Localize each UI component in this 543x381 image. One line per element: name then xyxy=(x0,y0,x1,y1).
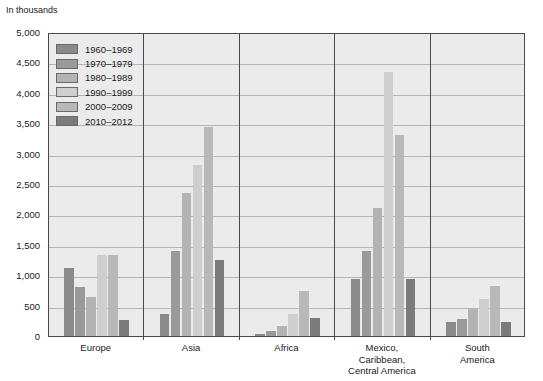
legend-swatch-icon xyxy=(56,73,78,83)
bar xyxy=(171,251,181,336)
category-separator xyxy=(334,33,335,340)
x-category-label: Mexico, Caribbean, Central America xyxy=(348,342,416,377)
bar xyxy=(490,286,500,336)
y-tick-label: 5,000 xyxy=(16,28,40,38)
bar xyxy=(255,334,265,336)
category-separator xyxy=(430,33,431,340)
bar xyxy=(501,322,511,336)
legend-swatch-icon xyxy=(56,87,78,97)
gridline xyxy=(49,308,524,309)
x-category-label: Africa xyxy=(274,342,298,354)
legend-item-label: 2000–2009 xyxy=(85,101,133,112)
y-axis: 05001,0001,5002,0002,5003,0003,5004,0004… xyxy=(0,33,44,337)
legend-item-label: 1980–1989 xyxy=(85,72,133,83)
legend-item[interactable]: 1990–1999 xyxy=(56,85,133,99)
bar xyxy=(457,319,467,336)
gridline xyxy=(49,277,524,278)
bar xyxy=(395,135,405,336)
legend-item[interactable]: 2000–2009 xyxy=(56,100,133,114)
legend-item-label: 2010–2012 xyxy=(85,116,133,127)
immigration-bar-chart: In thousands 05001,0001,5002,0002,5003,0… xyxy=(0,0,543,381)
x-category-label: Asia xyxy=(182,342,200,354)
legend-item[interactable]: 1980–1989 xyxy=(56,71,133,85)
legend-swatch-icon xyxy=(56,116,78,126)
y-axis-unit-caption: In thousands xyxy=(6,5,58,16)
bar xyxy=(299,291,309,336)
y-tick-label: 4,500 xyxy=(16,58,40,68)
legend-item-label: 1960–1969 xyxy=(85,44,133,55)
bar xyxy=(406,279,416,336)
y-tick-label: 0 xyxy=(35,332,40,342)
bar xyxy=(193,165,203,336)
x-category-label: Europe xyxy=(80,342,111,354)
legend-swatch-icon xyxy=(56,44,78,54)
legend-swatch-icon xyxy=(56,59,78,69)
bar xyxy=(384,72,394,336)
bar xyxy=(351,279,361,336)
category-separator xyxy=(239,33,240,340)
bar xyxy=(75,287,85,336)
legend-item[interactable]: 1960–1969 xyxy=(56,42,133,56)
legend-item-label: 1990–1999 xyxy=(85,87,133,98)
bar xyxy=(160,314,170,336)
x-category-label: South America xyxy=(460,342,495,365)
bar xyxy=(108,255,118,336)
bar xyxy=(204,127,214,336)
bar xyxy=(288,314,298,336)
legend-swatch-icon xyxy=(56,102,78,112)
bar xyxy=(64,268,74,336)
y-tick-label: 3,500 xyxy=(16,119,40,129)
gridline xyxy=(49,186,524,187)
y-tick-label: 2,500 xyxy=(16,180,40,190)
category-separator xyxy=(143,33,144,340)
bar xyxy=(310,318,320,336)
bar xyxy=(86,297,96,336)
legend-item-label: 1970–1979 xyxy=(85,58,133,69)
y-tick-label: 1,000 xyxy=(16,271,40,281)
bar xyxy=(446,322,456,336)
gridline xyxy=(49,216,524,217)
bar xyxy=(479,299,489,336)
gridline xyxy=(49,156,524,157)
bar xyxy=(266,331,276,336)
y-tick-label: 2,000 xyxy=(16,210,40,220)
bar xyxy=(277,326,287,336)
y-tick-label: 3,000 xyxy=(16,150,40,160)
bar xyxy=(119,320,129,336)
bar xyxy=(97,255,107,336)
bar xyxy=(182,193,192,336)
x-axis: EuropeAsiaAfricaMexico, Caribbean, Centr… xyxy=(48,342,525,381)
y-tick-label: 1,500 xyxy=(16,241,40,251)
gridline xyxy=(49,247,524,248)
chart-legend: 1960–19691970–19791980–19891990–19992000… xyxy=(56,40,133,128)
bar xyxy=(468,309,478,336)
bar xyxy=(215,260,225,336)
y-tick-label: 500 xyxy=(24,302,40,312)
bar xyxy=(362,251,372,336)
bar xyxy=(373,208,383,336)
legend-item[interactable]: 2010–2012 xyxy=(56,114,133,128)
legend-item[interactable]: 1970–1979 xyxy=(56,56,133,70)
y-tick-label: 4,000 xyxy=(16,89,40,99)
